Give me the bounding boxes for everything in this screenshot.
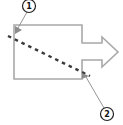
arrow-shape (14, 25, 118, 79)
diagram-canvas: 1 2 (0, 0, 123, 125)
callout-1-label: 1 (26, 2, 32, 11)
callout-2-label: 2 (104, 110, 110, 119)
leader-line-2 (86, 77, 104, 108)
callout-2: 2 (101, 108, 114, 121)
callout-1: 1 (23, 0, 36, 13)
marker-2-triangle-icon (82, 73, 89, 79)
